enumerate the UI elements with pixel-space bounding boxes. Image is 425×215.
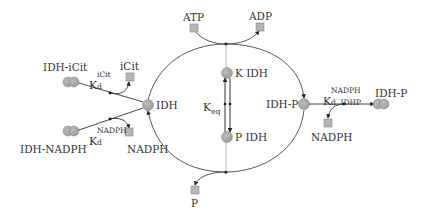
- p-node[interactable]: [191, 186, 199, 194]
- atp-label: ATP: [183, 12, 204, 23]
- kd-nadph-idhp-sub: d, IDHP: [331, 99, 361, 107]
- nadph-right-label: NADPH: [311, 132, 352, 143]
- idh-icit-node[interactable]: [63, 77, 79, 87]
- p-label: P: [191, 198, 198, 209]
- k-idh-label: K IDH: [235, 68, 268, 79]
- icit-to-junction: [110, 82, 129, 94]
- kd-nadph-sup: NADPH: [97, 127, 127, 135]
- idh-nadph-node[interactable]: [63, 126, 79, 136]
- keq-sub: eq: [211, 107, 220, 116]
- p-idh-node[interactable]: [222, 132, 233, 143]
- kd-nadph-main: K: [89, 135, 97, 148]
- p-idh-label: P IDH: [235, 132, 267, 143]
- idh-label: IDH: [156, 100, 178, 111]
- adp-node[interactable]: [256, 23, 264, 31]
- kd-nadph-sub: d: [97, 139, 102, 147]
- icit-node[interactable]: [126, 73, 134, 81]
- idh-p-node[interactable]: [299, 99, 310, 110]
- nadph-left-junction: [109, 118, 112, 121]
- idh-nadph-label: IDH-NADPH: [20, 144, 87, 155]
- icit-junction: [109, 92, 112, 95]
- idh-p-label: IDH-P: [266, 99, 298, 110]
- idh-p-complex-label: IDH-P: [375, 88, 407, 99]
- keq-constant: Keq: [203, 98, 220, 114]
- idh-p-complex-node[interactable]: [373, 99, 389, 109]
- atp-node[interactable]: [190, 24, 198, 32]
- icit-label: iCit: [120, 61, 139, 72]
- kd-icit-main: K: [89, 79, 97, 92]
- kd-nadph-idhp-sup: NADPH: [331, 87, 361, 95]
- keq-junction-left: [224, 103, 227, 106]
- nadph-left-label: NADPH: [127, 144, 168, 155]
- k-idh-node[interactable]: [222, 68, 233, 79]
- keq-junction-right: [229, 103, 232, 106]
- kd-nadph-idhp-constant: K NADPH d, IDHP: [323, 92, 331, 108]
- nadph-right-node[interactable]: [324, 119, 332, 127]
- adp-label: ADP: [249, 11, 272, 22]
- p-release-reaction: [195, 172, 226, 185]
- kd-nadph-constant: K NADPH d: [89, 132, 97, 148]
- kd-icit-sub: d: [97, 83, 102, 91]
- idh-node[interactable]: [143, 100, 154, 111]
- keq-main: K: [203, 101, 211, 114]
- kd-nadph-idhp-main: K: [323, 95, 331, 108]
- kd-icit-constant: K iCit d: [89, 76, 97, 92]
- atp-adp-reaction: [195, 31, 259, 44]
- kd-icit-sup: iCit: [97, 71, 111, 79]
- idh-icit-label: IDH-iCit: [43, 62, 87, 73]
